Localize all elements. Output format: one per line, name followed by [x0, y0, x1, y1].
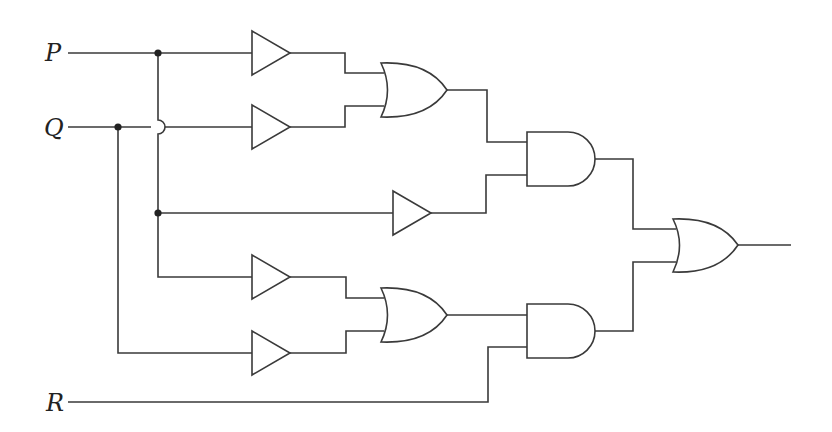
junction-dot-p-lower	[154, 209, 161, 216]
input-label-r: R	[45, 389, 64, 417]
wire-buf2-or1	[290, 106, 384, 127]
and-gate-1	[527, 132, 595, 186]
or-gate-2	[381, 288, 447, 342]
wire-q	[68, 127, 252, 353]
or-gate-output	[673, 219, 738, 272]
buffer-gate-3	[393, 191, 431, 235]
wire-buf3-and1	[431, 175, 527, 213]
or-gate-1	[381, 63, 447, 117]
wire-p	[68, 53, 393, 277]
input-label-q: Q	[44, 114, 64, 142]
and-gate-2	[527, 304, 595, 358]
wire-or1-and1	[447, 90, 527, 142]
wire-buf4-or2	[290, 277, 384, 298]
buffer-gate-2	[252, 105, 290, 149]
junction-dot-q	[114, 123, 121, 130]
wire-and2-or3	[595, 262, 676, 331]
buffer-gate-4	[252, 255, 290, 299]
wire-buf5-or2	[290, 331, 384, 353]
junction-dot-p	[154, 49, 161, 56]
buffer-gate-1	[252, 31, 290, 75]
wire-r	[68, 347, 527, 402]
logic-circuit-diagram: P Q R	[0, 0, 832, 432]
input-label-p: P	[44, 39, 62, 67]
buffer-gate-5	[252, 331, 290, 375]
wire-and1-or3	[595, 159, 676, 229]
wire-buf1-or1	[290, 53, 384, 73]
